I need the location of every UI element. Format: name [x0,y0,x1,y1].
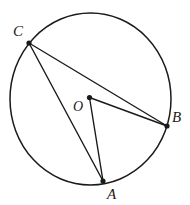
chord-c-to-b [29,43,167,126]
point-b-dot [164,123,169,128]
geometry-figure: C B A O [0,0,190,205]
radius-o-to-b [90,98,168,127]
geometry-canvas [0,0,190,205]
point-a-dot [100,178,105,183]
point-c-dot [26,40,31,45]
point-label-c: C [13,24,23,39]
point-o-center-dot [87,95,92,100]
point-label-o: O [73,100,83,114]
point-label-b: B [172,110,181,125]
point-label-a: A [107,187,116,202]
